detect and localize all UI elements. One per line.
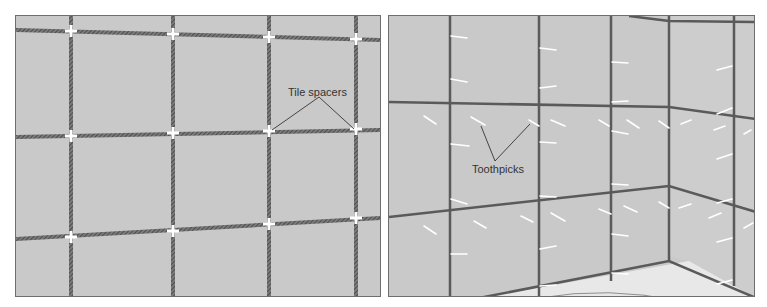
corner-tile-drawing [389, 16, 755, 297]
toothpicks-panel: Toothpicks [388, 15, 755, 297]
toothpicks-label: Toothpicks [472, 163, 524, 175]
vertical-grout-lines [69, 16, 358, 297]
callout-leader-lines [481, 124, 530, 161]
callout-leader-lines [272, 97, 354, 130]
tile-spacers-label: Tile spacers [288, 86, 347, 98]
tile-grid-drawing [16, 16, 381, 297]
tile-spacers-panel: Tile spacers [15, 15, 381, 297]
